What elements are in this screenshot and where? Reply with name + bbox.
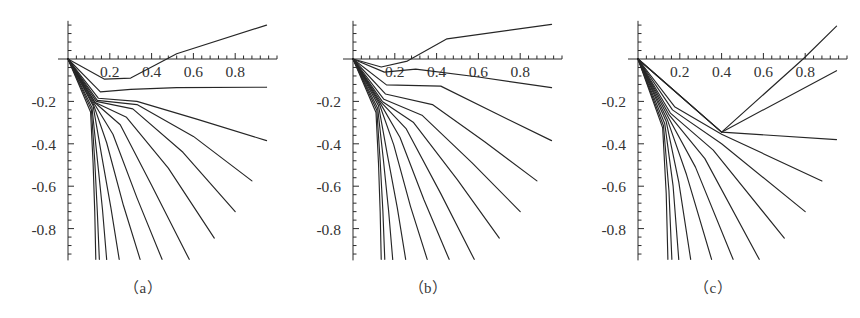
x-tick-label: 0.8 [226,63,246,80]
panel-b: 0.20.40.60.8-0.2-0.4-0.6-0.8 （b） [285,0,571,318]
plot-b: 0.20.40.60.8-0.2-0.4-0.6-0.8 [285,0,571,270]
data-curve [353,24,552,67]
x-tick-label: 0.4 [142,63,162,80]
y-tick-label: -0.8 [601,221,626,238]
panel-b-caption: （b） [285,276,571,297]
panel-a-caption: （a） [0,276,286,297]
x-tick-label: 0.6 [754,63,774,80]
y-tick-label: -0.6 [316,178,341,195]
y-tick-label: -0.2 [316,93,341,110]
y-tick-label: -0.6 [31,178,56,195]
y-tick-label: -0.8 [316,221,341,238]
x-tick-label: 0.2 [670,63,689,80]
data-curve [68,59,214,238]
x-tick-label: 0.4 [712,63,732,80]
panel-a: 0.20.40.60.8-0.2-0.4-0.6-0.8 （a） [0,0,286,318]
x-tick-label: 0.2 [100,63,119,80]
y-tick-label: -0.2 [601,93,626,110]
y-tick-label: -0.4 [601,136,626,153]
plot-c: 0.20.40.60.8-0.2-0.4-0.6-0.8 [570,0,856,270]
y-tick-label: -0.4 [316,136,341,153]
panel-c: 0.20.40.60.8-0.2-0.4-0.6-0.8 （c） [570,0,856,318]
y-tick-label: -0.4 [31,136,56,153]
figure-container: 0.20.40.60.8-0.2-0.4-0.6-0.8 （a） 0.20.40… [0,0,860,318]
y-tick-label: -0.6 [601,178,626,195]
x-tick-label: 0.8 [511,63,531,80]
y-tick-label: -0.8 [31,221,56,238]
x-tick-label: 0.8 [796,63,816,80]
panel-c-caption: （c） [570,276,856,297]
x-tick-label: 0.6 [184,63,204,80]
plot-a: 0.20.40.60.8-0.2-0.4-0.6-0.8 [0,0,286,270]
y-tick-label: -0.2 [31,93,56,110]
data-curve [638,59,784,238]
